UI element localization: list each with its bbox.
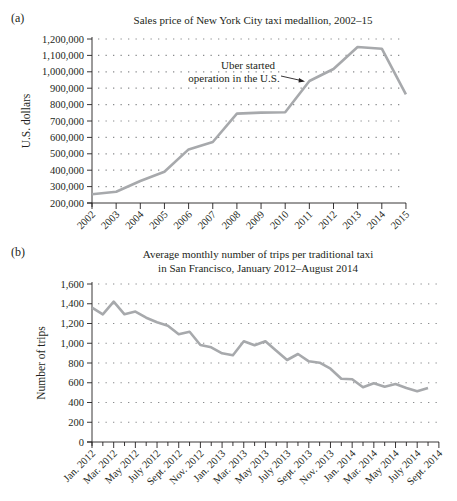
chart-a-title: Sales price of New York City taxi medall… <box>134 14 373 26</box>
chart-b-x-tick-labels: Jan. 2012Mar. 2012May 2012July 2012Sept.… <box>61 447 445 487</box>
x-tick-label: 2011 <box>292 209 314 231</box>
figure: (a) Sales price of New York City taxi me… <box>0 0 457 501</box>
chart-a-y-tick-labels: 200,000300,000400,000500,000600,000700,0… <box>42 34 84 209</box>
y-tick-label: 1,000,000 <box>42 66 84 77</box>
y-tick-label: 600,000 <box>50 132 84 143</box>
annotation-uber-line2: operation in the U.S. <box>188 72 280 84</box>
y-tick-label: 800 <box>68 358 84 369</box>
chart-a-nyc-medallion-price: (a) Sales price of New York City taxi me… <box>11 11 411 231</box>
y-tick-label: 800,000 <box>50 99 84 110</box>
annotation-uber-line1: Uber started <box>221 59 276 71</box>
x-tick-label: 2014 <box>365 208 388 231</box>
x-tick-label: 2012 <box>316 209 339 232</box>
chart-a-x-tick-labels: 2002200320042005200620072008200920102011… <box>75 208 412 231</box>
y-tick-label: 1,200,000 <box>42 34 84 45</box>
y-tick-label: 1,600 <box>60 279 84 290</box>
y-tick-label: 1,100,000 <box>42 50 84 61</box>
x-tick-label: 2004 <box>123 208 146 231</box>
y-tick-label: 400,000 <box>50 165 84 176</box>
y-tick-label: 400 <box>68 397 84 408</box>
annotation-arrow-icon <box>281 76 305 83</box>
panel-label-a: (a) <box>11 11 24 25</box>
chart-b-title-line2: in San Francisco, January 2012–August 20… <box>158 262 358 274</box>
x-tick-label: 2010 <box>268 209 291 232</box>
y-tick-label: 1,400 <box>60 298 84 309</box>
y-tick-label: 200,000 <box>50 198 84 209</box>
x-tick-label: 2013 <box>340 209 363 232</box>
chart-b-sf-taxi-trips: (b) Average monthly number of trips per … <box>11 245 445 487</box>
x-tick-label: 2009 <box>244 209 267 232</box>
chart-b-title-line1: Average monthly number of trips per trad… <box>143 248 373 260</box>
chart-b-data-line <box>92 302 428 392</box>
y-tick-label: 200 <box>68 417 84 428</box>
chart-a-y-axis-title: U.S. dollars <box>20 93 32 148</box>
chart-b-gridlines <box>98 284 442 422</box>
y-tick-label: 1,000 <box>60 338 84 349</box>
y-tick-label: 300,000 <box>50 181 84 192</box>
y-tick-label: 500,000 <box>50 148 84 159</box>
x-tick-label: 2003 <box>99 209 122 232</box>
x-tick-label: 2015 <box>389 209 412 232</box>
x-tick-label: 2007 <box>196 209 219 232</box>
y-tick-label: 900,000 <box>50 83 84 94</box>
chart-b-axes <box>87 282 439 448</box>
panel-label-b: (b) <box>11 245 25 259</box>
y-tick-label: 1,200 <box>60 318 84 329</box>
y-tick-label: 0 <box>79 437 84 448</box>
x-tick-label: 2008 <box>220 209 243 232</box>
x-tick-label: 2006 <box>171 209 194 232</box>
x-tick-label: 2002 <box>75 209 98 232</box>
x-tick-label: 2005 <box>147 209 170 232</box>
chart-b-y-tick-labels: 02004006008001,0001,2001,4001,600 <box>60 279 84 448</box>
chart-b-y-axis-title: Number of trips <box>35 326 48 400</box>
y-tick-label: 700,000 <box>50 116 84 127</box>
y-tick-label: 600 <box>68 377 84 388</box>
